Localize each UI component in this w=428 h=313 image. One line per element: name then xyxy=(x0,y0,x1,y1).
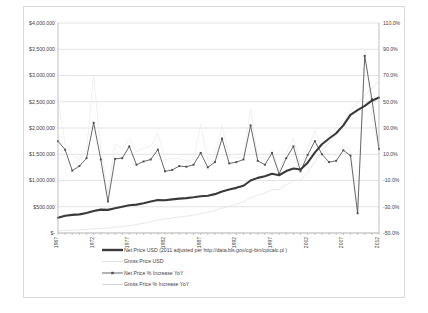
legend-item-label: Gross Price % Increase YoY xyxy=(124,281,190,287)
series-point-marker xyxy=(100,159,102,161)
right-axis-tick-label: -10.0% xyxy=(383,177,400,183)
x-axis-tick-label: 1967 xyxy=(53,237,59,248)
series-point-marker xyxy=(235,161,237,163)
left-axis-tick-label: $2,500,000 xyxy=(29,99,55,105)
right-axis-tick-label: 50.0% xyxy=(383,99,398,105)
series-point-marker xyxy=(143,161,145,163)
series-point-marker xyxy=(78,165,80,167)
series-point-marker xyxy=(314,140,316,142)
series-point-marker xyxy=(200,152,202,154)
series-point-marker xyxy=(321,153,323,155)
left-axis-tick-labels: $-$500,000$1,000,000$1,500,000$2,000,000… xyxy=(29,20,55,236)
legend-item-label: Net Price USD (2011 adjusted per http://… xyxy=(124,247,287,253)
series-point-marker xyxy=(93,122,95,124)
series-point-marker xyxy=(86,157,88,159)
series-point-marker xyxy=(157,149,159,151)
series-point-marker xyxy=(292,145,294,147)
series-point-marker xyxy=(185,166,187,168)
left-axis-tick-label: $500,000 xyxy=(33,204,55,210)
series-point-marker xyxy=(300,170,302,172)
series-point-marker xyxy=(285,157,287,159)
right-axis-tick-label: 70.0% xyxy=(383,72,398,78)
series-point-marker xyxy=(264,164,266,166)
gridlines-group xyxy=(58,23,379,233)
series-line xyxy=(58,56,379,214)
right-axis-tick-label: 10.0% xyxy=(383,151,398,157)
series-point-marker xyxy=(171,169,173,171)
series-point-marker xyxy=(214,161,216,163)
series-point-marker xyxy=(121,157,123,159)
right-axis-tick-labels: -50.0%-30.0%-10.0%10.0%30.0%50.0%70.0%90… xyxy=(383,20,401,236)
series-point-marker xyxy=(114,158,116,160)
chart-plot-area: $-$500,000$1,000,000$1,500,000$2,000,000… xyxy=(24,7,406,299)
left-axis-tick-label: $4,000,000 xyxy=(29,20,55,26)
x-axis-tick-label: 2002 xyxy=(303,237,309,248)
series-point-marker xyxy=(207,166,209,168)
legend-item-label: Net Price % Increase YoY xyxy=(124,270,184,276)
series-point-marker xyxy=(243,159,245,161)
right-axis-tick-label: 90.0% xyxy=(383,46,398,52)
series-point-marker xyxy=(178,165,180,167)
chart-card: $-$500,000$1,000,000$1,500,000$2,000,000… xyxy=(23,6,405,298)
chart-svg: $-$500,000$1,000,000$1,500,000$2,000,000… xyxy=(24,7,406,299)
series-point-marker xyxy=(128,145,130,147)
series-point-marker xyxy=(193,164,195,166)
x-axis-tick-label: 1972 xyxy=(89,237,95,248)
series-point-marker xyxy=(228,162,230,164)
legend-swatch-marker xyxy=(111,272,113,274)
x-axis-tick-label: 2012 xyxy=(374,237,380,248)
series-line xyxy=(58,98,379,218)
series-point-marker xyxy=(64,149,66,151)
x-axis-tick-label: 2007 xyxy=(338,237,344,248)
series-group xyxy=(57,49,380,231)
series-line xyxy=(58,82,379,231)
right-axis-tick-label: -50.0% xyxy=(383,230,400,236)
series-point-marker xyxy=(164,170,166,172)
series-point-marker xyxy=(136,164,138,166)
series-point-marker xyxy=(342,149,344,151)
series-point-marker xyxy=(350,155,352,157)
right-axis-tick-label: 30.0% xyxy=(383,125,398,131)
left-axis-tick-label: $2,000,000 xyxy=(29,125,55,131)
series-point-marker xyxy=(107,201,109,203)
series-point-marker xyxy=(271,152,273,154)
series-point-marker xyxy=(221,138,223,140)
right-axis-tick-label: 110.0% xyxy=(383,20,401,26)
left-axis-tick-label: $1,500,000 xyxy=(29,151,55,157)
series-point-marker xyxy=(307,154,309,156)
series-point-marker xyxy=(150,159,152,161)
series-point-marker xyxy=(257,160,259,162)
series-point-marker xyxy=(335,160,337,162)
left-axis-tick-label: $1,000,000 xyxy=(29,177,55,183)
series-point-marker xyxy=(364,55,366,57)
left-axis-tick-label: $3,500,000 xyxy=(29,46,55,52)
series-point-marker xyxy=(328,161,330,163)
left-axis-tick-label: $- xyxy=(50,230,55,236)
series-point-marker xyxy=(250,124,252,126)
left-axis-tick-label: $3,000,000 xyxy=(29,72,55,78)
right-axis-tick-label: -30.0% xyxy=(383,204,400,210)
series-point-marker xyxy=(71,170,73,172)
chart-legend: Net Price USD (2011 adjusted per http://… xyxy=(102,247,287,288)
legend-item-label: Gross Price USD xyxy=(124,258,164,264)
series-point-marker xyxy=(357,212,359,214)
